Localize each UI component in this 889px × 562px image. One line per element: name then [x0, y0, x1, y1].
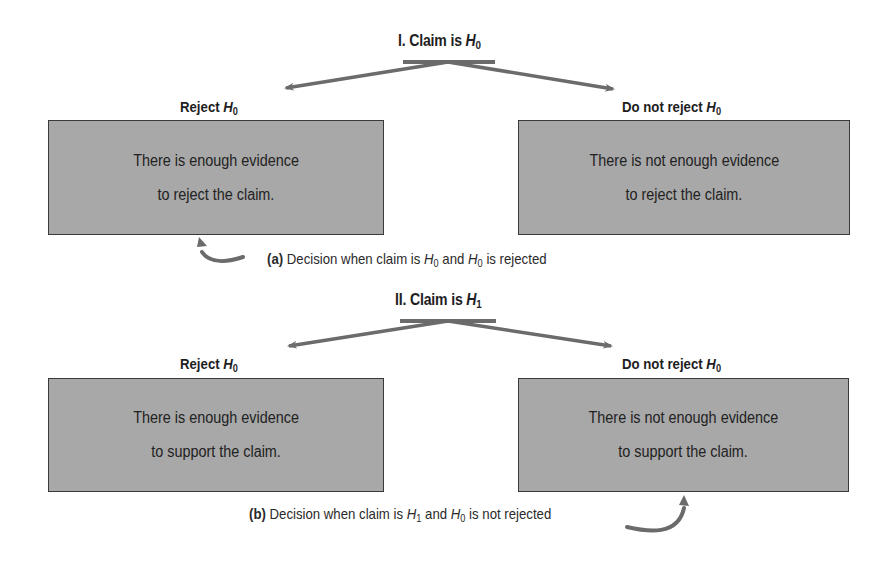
- section-I-title: I. Claim is H0: [398, 32, 481, 51]
- reject-h0-box-I: There is enough evidence to reject the c…: [48, 120, 384, 235]
- do-not-reject-h0-label-I: Do not reject H0: [622, 98, 721, 117]
- box-text-line: There is not enough evidence: [589, 144, 779, 178]
- arrow-to-reject-II: [289, 321, 448, 346]
- box-text-line: There is enough evidence: [133, 401, 299, 435]
- box-text-line: to support the claim.: [151, 435, 281, 469]
- arrow-to-do-not-reject-I: [448, 62, 613, 89]
- box-text-line: There is not enough evidence: [589, 401, 779, 435]
- reject-h0-label-I: Reject H0: [180, 98, 238, 117]
- do-not-reject-h0-label-II: Do not reject H0: [622, 355, 721, 374]
- reject-h0-box-II: There is enough evidence to support the …: [48, 378, 384, 492]
- curved-arrow-a: [202, 252, 243, 261]
- box-text-line: to reject the claim.: [158, 178, 275, 212]
- arrow-to-do-not-reject-II: [448, 321, 611, 346]
- box-text-line: to support the claim.: [619, 435, 749, 469]
- curved-arrow-b: [627, 508, 684, 531]
- caption-a: (a) Decision when claim is H0 and H0 is …: [267, 250, 547, 269]
- box-text-line: to reject the claim.: [626, 178, 743, 212]
- section-II-title: II. Claim is H1: [395, 291, 482, 310]
- arrow-to-reject-I: [286, 62, 448, 88]
- do-not-reject-h0-box-II: There is not enough evidence to support …: [518, 378, 849, 492]
- do-not-reject-h0-box-I: There is not enough evidence to reject t…: [518, 120, 850, 235]
- reject-h0-label-II: Reject H0: [180, 355, 238, 374]
- caption-b: (b) Decision when claim is H1 and H0 is …: [249, 505, 551, 524]
- box-text-line: There is enough evidence: [133, 144, 299, 178]
